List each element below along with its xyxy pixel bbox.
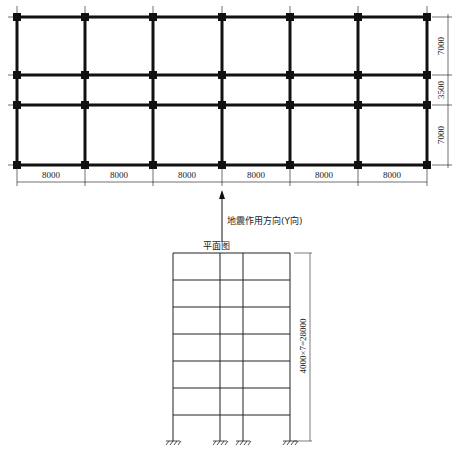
- span-dim-1: 7000: [436, 37, 446, 56]
- plan-caption: 平面图: [203, 241, 230, 251]
- bay-dim-1: 8000: [42, 170, 61, 180]
- bay-dim-4: 8000: [247, 170, 266, 180]
- bay-dim-5: 8000: [315, 170, 334, 180]
- bay-dim-6: 8000: [383, 170, 402, 180]
- span-dim-2: 3500: [436, 81, 446, 100]
- floor-plan: [8, 6, 427, 165]
- fixed-supports: [166, 441, 298, 445]
- seismic-arrow: [219, 190, 225, 242]
- bay-dimensions: [17, 168, 427, 186]
- seismic-direction-label: 地震作用方向(Y向): [227, 215, 303, 226]
- span-dim-3: 7000: [436, 126, 446, 145]
- bay-dim-2: 8000: [110, 170, 129, 180]
- frame-elevation: [173, 253, 290, 441]
- height-dim-label: 4000×7=28000: [298, 318, 308, 374]
- structural-drawing: 8000 8000 8000 8000 8000 8000 7000 3500 …: [0, 0, 459, 452]
- bay-dim-3: 8000: [178, 170, 197, 180]
